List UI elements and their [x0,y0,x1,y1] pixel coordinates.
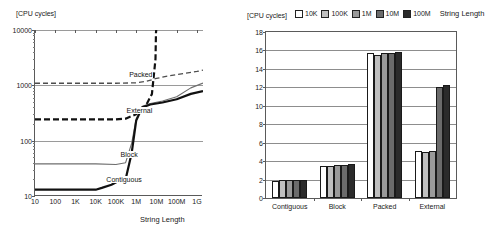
bar-contiguous-10k [272,181,279,198]
bar-contiguous-1m [286,180,293,198]
bar-packed-10m [388,53,395,198]
bar-contiguous-10m [293,180,300,198]
figure-container: [CPU cycles] 10100100010000101001K10K100… [0,0,486,246]
right-y-axis-unit-label: [CPU cycles] [247,12,287,19]
right-category-label: Block [314,203,362,210]
legend-item-1m[interactable]: 1M [352,10,372,18]
left-curve-label-external: External [126,107,154,114]
legend-item-10k[interactable]: 10K [295,10,317,18]
left-x-tick-label: 100K [108,198,124,205]
left-x-tick-label: 100M [168,198,186,205]
bar-block-10k [320,166,327,198]
left-chart-panel: [CPU cycles] 10100100010000101001K10K100… [0,0,243,246]
left-x-tick-label: 10M [150,198,164,205]
left-y-axis-unit-label: [CPU cycles] [16,10,56,17]
right-y-tick-label: 16 [255,47,263,54]
bar-external-100k [422,152,429,198]
left-curve-label-contiguous: Contiguous [105,176,142,183]
right-y-tick-label: 12 [255,84,263,91]
bar-group: External [409,32,457,198]
legend-label: 10K [305,10,317,17]
bar-packed-100m [395,52,402,198]
bar-group: Packed [361,32,409,198]
right-y-tick-mark [263,198,266,199]
right-category-label: Contiguous [266,203,314,210]
left-y-tick-label: 100 [20,137,32,144]
right-y-tick-label: 18 [255,29,263,36]
bar-external-1m [429,151,436,198]
legend-item-10m[interactable]: 10M [376,10,400,18]
legend-item-100m[interactable]: 100M [403,10,431,18]
left-curve-label-block: Block [120,151,139,158]
left-x-tick-label: 10 [31,198,39,205]
bar-packed-100k [374,55,381,198]
right-chart-legend: 10K100K1M10M100MString Length [295,9,484,18]
left-x-tick-label: 1K [71,198,80,205]
bar-block-100k [327,166,334,198]
left-x-tick-label: 10K [89,198,101,205]
right-legend-title: String Length [440,9,485,18]
left-curves [35,30,203,196]
legend-swatch-icon [376,10,384,18]
legend-swatch-icon [403,10,411,18]
left-x-tick-label: 1G [192,198,201,205]
left-x-tick-label: 1M [131,198,141,205]
bar-packed-10k [367,53,374,198]
right-category-tick [409,198,410,201]
right-category-tick [314,198,315,201]
right-plot-area: 024681012141618ContiguousBlockPackedExte… [265,31,457,199]
bar-external-10k [415,151,422,198]
right-category-tick [361,198,362,201]
bar-block-1m [334,165,341,198]
bar-contiguous-100m [300,180,307,198]
right-category-label: Packed [361,203,409,210]
bar-external-100m [443,85,450,198]
bar-contiguous-100k [279,180,286,198]
legend-item-100k[interactable]: 100K [321,10,347,18]
left-x-axis-title: String Length [140,215,185,224]
legend-swatch-icon [295,10,303,18]
legend-label: 10M [386,10,400,17]
left-x-tick-label: 100 [49,198,61,205]
right-category-label: External [409,203,457,210]
bar-packed-1m [381,53,388,198]
legend-label: 100K [331,10,347,17]
left-curve-label-packed: Packed [128,71,153,78]
left-y-tick-label: 1000 [16,82,32,89]
left-series-packed [35,70,203,83]
bar-external-10m [436,87,443,198]
left-y-tick-label: 10000 [13,27,32,34]
right-y-tick-label: 14 [255,65,263,72]
bar-group: Block [314,32,362,198]
legend-swatch-icon [352,10,360,18]
left-y-tick-mark [32,196,35,197]
right-y-tick-label: 10 [255,102,263,109]
right-chart-panel: [CPU cycles] 10K100K1M10M100MString Leng… [243,0,486,246]
legend-label: 1M [362,10,372,17]
bar-group: Contiguous [266,32,314,198]
legend-swatch-icon [321,10,329,18]
bar-block-100m [348,164,355,198]
bar-block-10m [341,165,348,198]
legend-label: 100M [413,10,431,17]
left-plot-area: 10100100010000101001K10K100K1M10M100M1GP… [34,30,202,196]
